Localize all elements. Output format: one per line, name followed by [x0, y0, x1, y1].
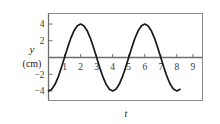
- x-axis-tick-label: 6: [142, 62, 147, 72]
- y-axis-label-symbol: y: [29, 43, 35, 55]
- y-axis-tick-label: 2: [40, 36, 45, 46]
- x-axis-tick-label: 2: [78, 62, 83, 72]
- x-axis-tick-labels: 123456789: [62, 62, 195, 72]
- y-axis-tick-label: −4: [34, 86, 44, 96]
- y-axis-tick-label: 4: [40, 19, 45, 29]
- x-axis-tick-label: 8: [174, 62, 179, 72]
- y-axis-label-unit: (cm): [23, 58, 42, 70]
- x-axis-tick-label: 9: [191, 62, 196, 72]
- oscillation-graph-figure: 123456789 42−2−4 y (cm) t: [0, 0, 220, 124]
- x-axis-tick-label: 4: [110, 62, 115, 72]
- x-axis-label-symbol: t: [125, 108, 128, 119]
- y-axis-tick-label: −2: [34, 70, 44, 80]
